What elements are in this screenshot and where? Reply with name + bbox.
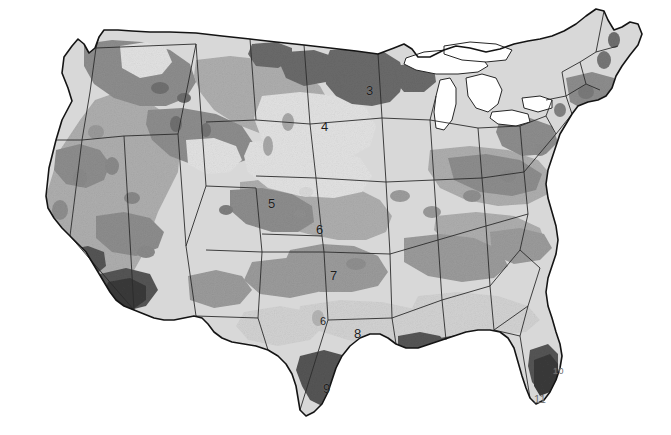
us-map-graphic [0,0,671,435]
hardiness-zone-map: 3 4 5 6 7 6 8 9 10 11 [0,0,671,435]
zone-label-3: 3 [366,84,374,97]
zone-label-9-south-texas: 9 [323,382,331,395]
zone-label-11-florida: 11 [534,394,546,405]
zone-label-8-texas: 8 [354,327,362,340]
zone-label-4: 4 [321,120,329,133]
zone-label-5: 5 [268,197,276,210]
zone-label-6-kansas: 6 [316,223,324,236]
zone-label-10-florida: 10 [553,367,564,376]
zone-label-7-oklahoma: 7 [330,269,338,282]
zone-label-6-texas: 6 [320,316,327,327]
